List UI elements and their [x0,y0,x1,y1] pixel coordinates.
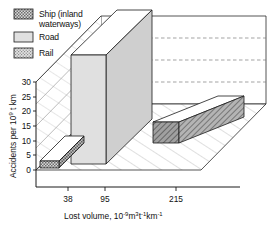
x-axis-title-main: Lost volume, 10 [64,211,123,221]
y-axis-title: Accidents per 109 t km [8,94,18,178]
x-axis: 38 95 215 Lost volume, 10-9m3t-1km-1 [36,187,240,221]
x-axis-title-mid3: km [146,211,157,221]
legend-label-road: Road [39,32,59,42]
legend-item-ship[interactable]: Ship (inland waterways) [14,9,83,29]
x-axis-title: Lost volume, 10-9m3t-1km-1 [64,211,163,221]
y-axis-title-tail: t km [8,94,18,112]
y-tick-30: 30 [22,77,32,87]
y-tick-5: 5 [26,150,31,160]
y-tick-25: 25 [22,92,32,102]
y-tick-15: 15 [22,121,32,131]
x-axis-title-mid1: m [128,211,135,221]
legend-item-rail[interactable]: Rail [14,48,53,58]
y-axis: 0 5 10 15 20 25 30 Accidents per 109 t k… [8,77,36,187]
y-axis-title-main: Accidents per 10 [8,115,18,178]
bar-chart-3d: 0 5 10 15 20 25 30 Accidents per 109 t k… [0,0,272,233]
y-tick-10: 10 [22,136,32,146]
legend-label-ship-line1: Ship (inland [39,9,83,19]
road-swatch [14,32,33,42]
legend-label-rail: Rail [39,48,53,58]
legend-item-road[interactable]: Road [14,32,59,42]
x-tick-38: 38 [63,194,73,204]
y-tick-20: 20 [22,106,32,116]
x-tick-215: 215 [169,194,183,204]
y-tick-0: 0 [26,165,31,175]
x-axis-title-exp4: -1 [157,211,162,217]
x-tick-95: 95 [100,194,110,204]
ship-swatch [14,9,33,19]
chart-figure: 0 5 10 15 20 25 30 Accidents per 109 t k… [0,0,272,233]
legend-label-ship-line2: waterways) [38,19,81,29]
rail-swatch [14,48,33,58]
